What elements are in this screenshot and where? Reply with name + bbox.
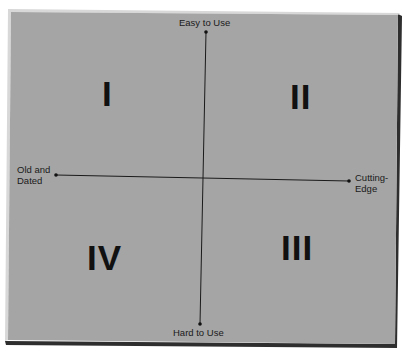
axis-dot-top bbox=[204, 30, 208, 34]
quadrant-numeral-iii: III bbox=[281, 230, 313, 265]
axis-dot-left bbox=[54, 173, 58, 177]
axis-dot-right bbox=[347, 179, 351, 183]
panel-graphic bbox=[0, 0, 407, 353]
quadrant-numeral-iv: IV bbox=[87, 240, 122, 275]
label-cutting-edge-line1: Cutting- bbox=[355, 172, 388, 183]
label-easy-to-use: Easy to Use bbox=[179, 17, 230, 28]
label-hard-to-use: Hard to Use bbox=[173, 327, 224, 338]
label-cutting-edge-line2: Edge bbox=[355, 183, 388, 194]
axis-dot-bottom bbox=[198, 322, 202, 326]
quadrant-diagram: Easy to Use Hard to Use Old and Dated Cu… bbox=[0, 0, 407, 353]
label-old-and-dated-line1: Old and bbox=[17, 164, 50, 175]
quadrant-numeral-i: I bbox=[102, 76, 113, 111]
label-old-and-dated-line2: Dated bbox=[17, 175, 50, 186]
label-cutting-edge: Cutting- Edge bbox=[355, 172, 388, 194]
quadrant-numeral-ii: II bbox=[290, 79, 311, 114]
label-old-and-dated: Old and Dated bbox=[17, 164, 50, 186]
